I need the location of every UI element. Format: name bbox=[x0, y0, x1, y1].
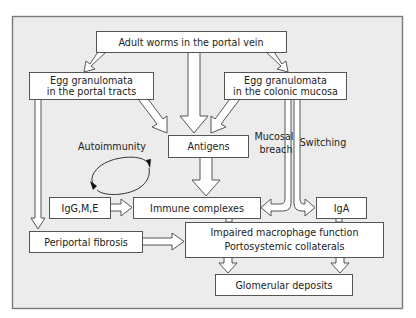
node-immune-complexes: Immune complexes bbox=[134, 198, 261, 219]
node-antigens: Antigens bbox=[169, 136, 249, 158]
label-switching: Switching bbox=[300, 137, 347, 148]
node-iga-label: IgA bbox=[334, 203, 350, 214]
node-immune-complexes-label: Immune complexes bbox=[150, 203, 244, 214]
node-egg-colonic: Egg granulomata in the colonic mucosa bbox=[225, 73, 347, 100]
label-mucosal-line2: breach bbox=[260, 144, 293, 155]
node-egg-portal-line1: Egg granulomata bbox=[50, 75, 133, 86]
node-glomerular-label: Glomerular deposits bbox=[235, 280, 332, 291]
node-glomerular-deposits: Glomerular deposits bbox=[216, 275, 353, 296]
node-impaired-line2: Portosystemic collaterals bbox=[224, 241, 344, 252]
node-igg: IgG,M,E bbox=[50, 198, 111, 219]
node-egg-colonic-line1: Egg granulomata bbox=[244, 75, 327, 86]
node-igg-label: IgG,M,E bbox=[62, 203, 99, 214]
node-periportal-fibrosis-label: Periportal fibrosis bbox=[44, 237, 128, 248]
node-iga: IgA bbox=[317, 198, 367, 219]
node-egg-colonic-line2: in the colonic mucosa bbox=[233, 86, 338, 97]
node-adult-worms-label: Adult worms in the portal vein bbox=[118, 37, 263, 48]
label-autoimmunity: Autoimmunity bbox=[78, 141, 146, 152]
node-antigens-label: Antigens bbox=[187, 141, 229, 152]
pathogenesis-diagram: Adult worms in the portal vein Egg granu… bbox=[0, 0, 416, 318]
node-impaired-macrophage: Impaired macrophage function Portosystem… bbox=[186, 223, 384, 258]
label-mucosal-line1: Mucosal bbox=[254, 131, 293, 142]
node-egg-portal: Egg granulomata in the portal tracts bbox=[30, 73, 154, 100]
node-periportal-fibrosis: Periportal fibrosis bbox=[30, 232, 143, 253]
node-egg-portal-line2: in the portal tracts bbox=[47, 86, 136, 97]
node-adult-worms: Adult worms in the portal vein bbox=[97, 32, 287, 53]
node-impaired-line1: Impaired macrophage function bbox=[211, 227, 359, 238]
